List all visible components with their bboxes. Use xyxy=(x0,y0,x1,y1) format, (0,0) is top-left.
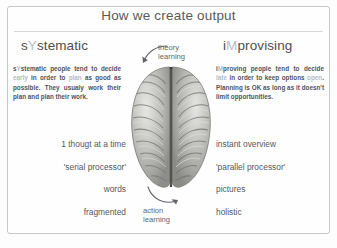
paragraph-run: in order to keep options xyxy=(227,74,307,81)
paragraph-run: in order to xyxy=(28,74,69,81)
paragraph-systematic: sYstematic people tend to decide early i… xyxy=(13,64,121,102)
brain-image xyxy=(126,63,216,191)
trait-item: 'parallel processor' xyxy=(216,162,336,172)
column-systematic: sYstematic sYstematic people tend to dec… xyxy=(13,38,121,102)
paragraph-accent-run: late xyxy=(216,74,227,81)
heading-suffix: provising xyxy=(237,38,292,53)
trait-item: holistic xyxy=(216,207,336,217)
title-bar: How we create output xyxy=(8,8,329,23)
column-improvising: iMprovising iMproving people tend to dec… xyxy=(216,38,324,102)
column-heading-improvising: iMprovising xyxy=(216,38,324,53)
heading-prefix: s xyxy=(21,38,28,53)
heading-accent-letter: M xyxy=(226,38,237,53)
theory-learning-caption: theory learning xyxy=(158,43,218,61)
column-heading-systematic: sYstematic xyxy=(13,38,121,53)
slide-canvas: How we create output sYstematic sYstemat… xyxy=(0,0,337,248)
caption-line-2: learning xyxy=(143,215,203,224)
title-divider xyxy=(14,31,323,32)
paragraph-run: stematic people tend to decide xyxy=(21,65,121,72)
paragraph-improvising: iMproving people tend to decide late in … xyxy=(216,64,324,102)
trait-item: 'serial processor' xyxy=(6,162,126,172)
paragraph-run: proving people tend to decide xyxy=(223,65,324,72)
action-learning-caption: action learning xyxy=(143,206,203,224)
trait-item: instant overview xyxy=(216,139,336,149)
page-title: How we create output xyxy=(8,8,329,23)
heading-suffix: stematic xyxy=(37,38,88,53)
paragraph-accent-run: open xyxy=(307,74,322,81)
trait-list-improvising: instant overview 'parallel processor' pi… xyxy=(216,139,336,229)
paragraph-accent-run: plan xyxy=(69,74,82,81)
trait-list-systematic: 1 thougt at a time 'serial processor' wo… xyxy=(6,139,126,229)
caption-line-2: learning xyxy=(158,52,218,61)
paragraph-accent-run: early xyxy=(13,74,28,81)
heading-accent-letter: Y xyxy=(28,38,37,53)
trait-item: words xyxy=(6,184,126,194)
curved-arrow-up-right-icon xyxy=(146,185,190,207)
caption-line-1: action xyxy=(143,206,203,215)
trait-item: pictures xyxy=(216,184,336,194)
trait-item: 1 thougt at a time xyxy=(6,139,126,149)
caption-line-1: theory xyxy=(158,43,218,52)
trait-item: fragmented xyxy=(6,207,126,217)
